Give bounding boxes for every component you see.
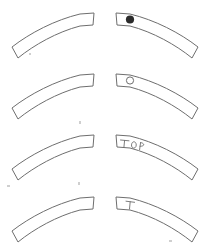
scan-speck (169, 240, 172, 242)
figure-canvas (0, 0, 210, 249)
filled-dot-marking (126, 15, 134, 23)
scan-speck (29, 53, 31, 55)
scan-speck (78, 182, 80, 185)
scan-speck (7, 185, 10, 187)
hollow-circle-marking (126, 77, 133, 84)
scan-speck (79, 121, 81, 124)
